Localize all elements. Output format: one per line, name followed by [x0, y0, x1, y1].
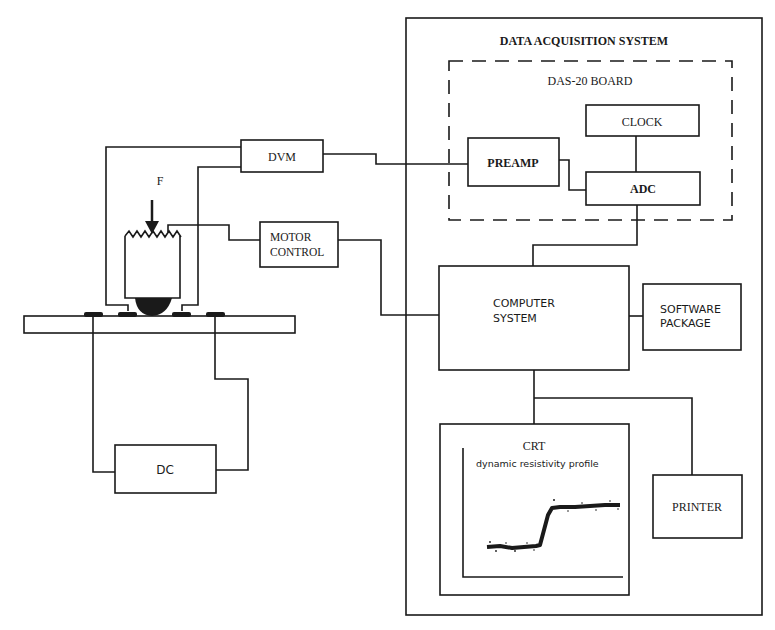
dvm-lead-inner	[182, 167, 241, 311]
software-label-line1: SOFTWARE	[660, 303, 721, 316]
software-label-line2: PACKAGE	[660, 317, 711, 330]
probe-spring	[125, 231, 181, 237]
block-diagram: DATA ACQUISITION SYSTEM DAS-20 BOARD CLO…	[0, 0, 775, 630]
printer-label: PRINTER	[672, 500, 722, 514]
probe-tip	[135, 298, 172, 316]
crt-label: CRT	[523, 439, 546, 453]
probe-motor-wire	[168, 225, 260, 240]
dc-label: DC	[156, 463, 174, 477]
computer-label-line2: SYSTEM	[493, 312, 537, 325]
dc-lead-right	[215, 316, 248, 470]
das-title: DATA ACQUISITION SYSTEM	[500, 34, 668, 48]
crt-caption: dynamic resistivity profile	[476, 458, 599, 469]
dvm-lead-outer	[106, 147, 241, 311]
motor-control-label-line2: CONTROL	[270, 246, 324, 258]
force-label: F	[157, 174, 164, 188]
das20-board-label: DAS-20 BOARD	[547, 74, 632, 88]
preamp-label: PREAMP	[487, 156, 538, 170]
dc-lead-left	[93, 316, 115, 472]
sample-substrate	[24, 316, 295, 333]
adc-label: ADC	[630, 182, 656, 196]
dvm-label: DVM	[268, 150, 296, 164]
motor-control-block	[260, 222, 338, 267]
clock-label: CLOCK	[622, 115, 663, 129]
probe-body	[125, 236, 180, 298]
motor-control-label-line1: MOTOR	[270, 231, 312, 243]
computer-label-line1: COMPUTER	[493, 297, 555, 310]
